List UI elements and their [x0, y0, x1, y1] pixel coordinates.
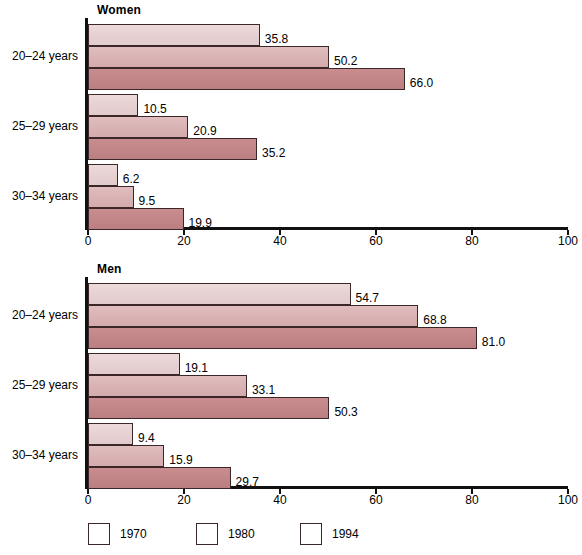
category-label-men-3: 30–34 years [0, 448, 78, 462]
bar-value-label: 19.1 [185, 361, 208, 375]
category-label-men-2: 25–29 years [0, 378, 78, 392]
category-label-women-2: 25–29 years [0, 119, 78, 133]
x-axis-tick-label: 60 [356, 493, 396, 507]
legend-label-1970: 1970 [120, 527, 147, 541]
bar-women-1980-3 [88, 186, 134, 208]
x-axis-tick-label: 20 [164, 493, 204, 507]
x-axis-tick-label: 80 [452, 493, 492, 507]
bar-value-label: 68.8 [423, 313, 446, 327]
chart-legend: 197019801994 [0, 515, 582, 555]
bar-women-1980-2 [88, 116, 188, 138]
bar-men-1980-3 [88, 445, 164, 467]
bar-men-1970-2 [88, 353, 180, 375]
legend-swatch-1994 [300, 523, 322, 545]
x-axis-tick-label: 80 [452, 234, 492, 248]
legend-swatch-1970 [88, 523, 110, 545]
bar-value-label: 10.5 [143, 102, 166, 116]
x-axis-tick-label: 0 [68, 234, 108, 248]
x-axis-tick-label: 40 [260, 234, 300, 248]
bar-value-label: 35.2 [262, 146, 285, 160]
bar-men-1970-1 [88, 283, 351, 305]
bar-women-1970-3 [88, 164, 118, 186]
bar-men-1994-2 [88, 397, 329, 419]
bar-value-label: 66.0 [410, 76, 433, 90]
x-axis-tick-label: 100 [548, 493, 582, 507]
bar-value-label: 6.2 [123, 172, 140, 186]
bar-men-1994-1 [88, 327, 477, 349]
bar-value-label: 19.9 [189, 216, 212, 230]
x-axis-tick-label: 0 [68, 493, 108, 507]
legend-swatch-1980 [196, 523, 218, 545]
x-axis-tick-label: 40 [260, 493, 300, 507]
x-axis-tick-label: 20 [164, 234, 204, 248]
bar-women-1994-3 [88, 208, 184, 230]
bar-value-label: 50.3 [334, 405, 357, 419]
plot-area-men: 54.768.881.020–24 years19.133.150.325–29… [88, 259, 568, 509]
bar-value-label: 9.4 [138, 431, 155, 445]
legend-label-1994: 1994 [332, 527, 359, 541]
bar-value-label: 29.7 [236, 475, 259, 489]
legend-label-1980: 1980 [228, 527, 255, 541]
bar-value-label: 9.5 [139, 194, 156, 208]
bar-women-1994-2 [88, 138, 257, 160]
bar-value-label: 81.0 [482, 335, 505, 349]
bar-value-label: 20.9 [193, 124, 216, 138]
bar-women-1970-1 [88, 24, 260, 46]
chart-panel-women: Women 35.850.266.020–24 years10.520.935.… [0, 0, 582, 250]
category-label-women-3: 30–34 years [0, 189, 78, 203]
bar-women-1980-1 [88, 46, 329, 68]
bar-value-label: 15.9 [169, 453, 192, 467]
bar-value-label: 50.2 [334, 54, 357, 68]
bar-value-label: 54.7 [356, 291, 379, 305]
plot-area-women: 35.850.266.020–24 years10.520.935.225–29… [88, 0, 568, 250]
bar-women-1994-1 [88, 68, 405, 90]
x-axis-tick-label: 60 [356, 234, 396, 248]
bar-women-1970-2 [88, 94, 138, 116]
bar-men-1970-3 [88, 423, 133, 445]
bar-value-label: 33.1 [252, 383, 275, 397]
category-label-women-1: 20–24 years [0, 49, 78, 63]
x-axis-tick-label: 100 [548, 234, 582, 248]
chart-panel-men: Men 54.768.881.020–24 years19.133.150.32… [0, 259, 582, 509]
bar-men-1980-1 [88, 305, 418, 327]
category-label-men-1: 20–24 years [0, 308, 78, 322]
bar-men-1994-3 [88, 467, 231, 489]
bar-value-label: 35.8 [265, 32, 288, 46]
bar-men-1980-2 [88, 375, 247, 397]
